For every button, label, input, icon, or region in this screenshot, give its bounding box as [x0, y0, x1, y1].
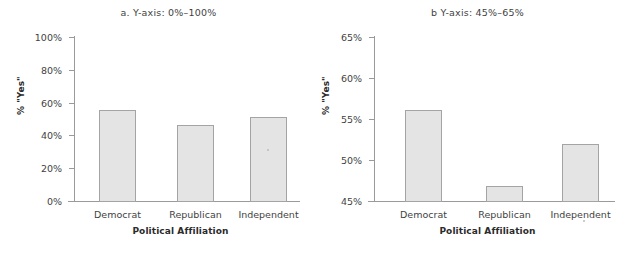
panel-a-x-axis-title: Political Affiliation: [0, 226, 315, 236]
panel-b-tick-55: 55%: [369, 119, 374, 120]
panel-a-tick-label-80: 80%: [41, 64, 62, 75]
panel-b-x-axis-title: Political Affiliation: [315, 226, 630, 236]
panel-a-tick-label-0: 0%: [47, 196, 62, 207]
figure-two-panel-bar-charts: a. Y-axis: 0%–100% % "Yes" 100% 80% 60% …: [0, 0, 630, 253]
panel-b-tick-label-50: 50%: [341, 155, 362, 166]
panel-b-category-label-democrat: Democrat: [400, 209, 447, 220]
panel-b-bar-republican: [486, 186, 523, 203]
panel-a-tick-60: 60%: [69, 103, 74, 104]
panel-a-bar-democrat: [99, 110, 136, 202]
panel-b-category-label-republican: Republican: [478, 209, 530, 220]
panel-b: b Y-axis: 45%–65% % "Yes" 65% 60% 55% 50…: [315, 0, 630, 253]
panel-b-tick-label-60: 60%: [341, 73, 362, 84]
panel-b-tick-65: 65%: [369, 37, 374, 38]
panel-a-y-axis-line: [74, 36, 75, 202]
panel-b-tick-label-55: 55%: [341, 114, 362, 125]
panel-a-tick-label-20: 20%: [41, 163, 62, 174]
panel-a-y-axis-title: % "Yes": [16, 76, 26, 115]
panel-a-bar-republican: [177, 125, 214, 202]
panel-a-plot-area: 100% 80% 60% 40% 20% 0% Democrat Republi…: [74, 38, 296, 202]
panel-a-tick-100: 100%: [69, 37, 74, 38]
panel-b-bar-democrat: [405, 110, 442, 202]
panel-a-tick-20: 20%: [69, 168, 74, 169]
panel-a-bar-independent: [250, 117, 287, 202]
panel-b-tick-label-45: 45%: [341, 196, 362, 207]
panel-b-tick-60: 60%: [369, 78, 374, 79]
panel-a-category-label-independent: Independent: [238, 209, 298, 220]
panel-b-plot-area: 65% 60% 55% 50% 45% Democrat Republican …: [374, 38, 611, 202]
panel-b-tick-label-65: 65%: [341, 32, 362, 43]
panel-a-title: a. Y-axis: 0%–100%: [0, 7, 315, 18]
panel-b-bar-independent: [562, 144, 599, 202]
panel-b-y-axis-title: % "Yes": [321, 76, 331, 115]
panel-a-scan-speck: [267, 149, 269, 151]
panel-a-tick-label-40: 40%: [41, 130, 62, 141]
panel-b-tick-45: 45%: [369, 201, 374, 202]
panel-b-category-label-independent: Independent: [550, 209, 610, 220]
panel-b-tick-50: 50%: [369, 160, 374, 161]
panel-b-title: b Y-axis: 45%–65%: [315, 7, 630, 18]
panel-a-tick-0: 0%: [69, 201, 74, 202]
panel-a-category-label-republican: Republican: [169, 209, 221, 220]
panel-a-category-label-democrat: Democrat: [94, 209, 141, 220]
panel-b-y-axis-line: [374, 36, 375, 202]
panel-b-scan-speck: [583, 220, 585, 222]
panel-a-tick-label-60: 60%: [41, 97, 62, 108]
panel-a-tick-40: 40%: [69, 135, 74, 136]
panel-a-tick-80: 80%: [69, 70, 74, 71]
panel-a-tick-label-100: 100%: [35, 32, 62, 43]
panel-a: a. Y-axis: 0%–100% % "Yes" 100% 80% 60% …: [0, 0, 315, 253]
